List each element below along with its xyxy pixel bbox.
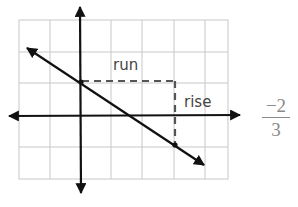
- fraction-bar: [262, 117, 290, 118]
- slope-numerator: −2: [262, 96, 290, 116]
- point-y-intercept: [78, 79, 83, 84]
- slope-denominator: 3: [262, 120, 290, 140]
- rise-label: rise: [184, 93, 211, 111]
- run-label: run: [113, 56, 138, 74]
- y-axis: [80, 7, 81, 193]
- coordinate-graph: run rise: [0, 0, 298, 207]
- slope-fraction: −2 3: [262, 96, 290, 140]
- x-axis: [9, 115, 240, 116]
- point-second: [172, 142, 177, 147]
